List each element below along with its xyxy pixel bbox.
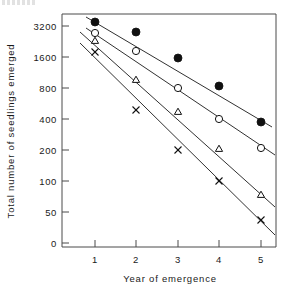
x-axis-title: Year of emergence <box>123 273 217 284</box>
data-point <box>92 49 99 56</box>
y-tick-label: 0 <box>51 238 57 249</box>
y-axis-tick-labels: 3200 1600 800 400 200 100 50 0 <box>33 21 57 249</box>
x-tick-label: 2 <box>133 254 139 265</box>
series-open-circle <box>86 28 275 155</box>
y-tick-label: 200 <box>39 145 57 156</box>
series-cross <box>80 43 275 235</box>
data-point <box>215 82 223 90</box>
data-point <box>175 147 182 154</box>
data-point <box>258 217 265 224</box>
data-point <box>132 76 139 82</box>
chart-svg: 3200 1600 800 400 200 100 50 0 1 2 3 4 5… <box>0 0 285 291</box>
y-tick-label: 50 <box>45 207 57 218</box>
data-point <box>91 37 98 43</box>
data-point <box>174 108 181 114</box>
data-point <box>174 84 181 91</box>
scan-artifact <box>2 0 36 5</box>
x-tick-label: 3 <box>175 254 181 265</box>
x-tick-label: 1 <box>92 254 98 265</box>
y-tick-label: 800 <box>39 83 57 94</box>
data-point <box>133 107 140 114</box>
y-axis-title: Total number of seedlings emerged <box>5 44 16 219</box>
data-point <box>174 54 182 62</box>
data-point <box>257 118 265 126</box>
data-point <box>91 29 98 36</box>
x-axis-tick-labels: 1 2 3 4 5 <box>92 254 264 265</box>
figure-panel: 3200 1600 800 400 200 100 50 0 1 2 3 4 5… <box>0 0 285 291</box>
data-point <box>216 178 223 185</box>
data-point <box>215 145 222 151</box>
trend-line <box>80 43 275 235</box>
y-tick-label: 1600 <box>33 52 57 63</box>
data-point <box>132 28 140 36</box>
y-tick-label: 100 <box>39 176 57 187</box>
data-point <box>257 144 264 151</box>
y-tick-label: 400 <box>39 114 57 125</box>
y-axis-ticks <box>62 26 69 243</box>
y-tick-label: 3200 <box>33 21 57 32</box>
x-tick-label: 5 <box>258 254 264 265</box>
data-point <box>132 47 139 54</box>
data-point <box>215 115 222 122</box>
trend-line <box>86 28 275 155</box>
x-tick-label: 4 <box>216 254 222 265</box>
data-point <box>91 18 99 26</box>
x-axis-ticks <box>95 240 261 247</box>
